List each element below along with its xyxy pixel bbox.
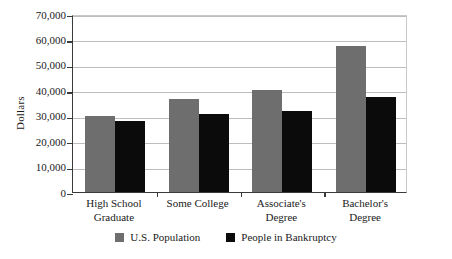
x-axis-label-line: Associate's <box>257 197 306 209</box>
y-axis-tick-label: 70,000 <box>36 10 66 21</box>
y-axis-tick-label: 10,000 <box>36 162 66 173</box>
legend-swatch-icon <box>226 233 235 242</box>
x-axis-category-label: Bachelor'sDegree <box>323 197 407 224</box>
bar <box>366 97 396 192</box>
x-axis-category-label: High SchoolGraduate <box>72 197 156 224</box>
bar <box>252 90 282 192</box>
x-axis-category-labels: High SchoolGraduateSome CollegeAssociate… <box>72 197 407 229</box>
legend-label: People in Bankruptcy <box>241 231 336 243</box>
bar-chart: Dollars 70,00060,00050,00040,00030,00020… <box>0 0 452 259</box>
bar <box>169 99 199 192</box>
legend-entry: People in Bankruptcy <box>226 231 336 243</box>
bar <box>85 116 115 192</box>
y-axis-tick-label: 50,000 <box>36 60 66 71</box>
x-axis-label-line: Bachelor's <box>342 197 388 209</box>
y-axis-tick-label: 60,000 <box>36 35 66 46</box>
bar-group <box>241 16 325 192</box>
bar-group <box>324 16 408 192</box>
y-axis-tick-mark <box>67 194 73 195</box>
y-axis-tick-label: 20,000 <box>36 137 66 148</box>
y-axis-tick-label: 0 <box>61 188 67 199</box>
legend-label: U.S. Population <box>130 231 200 243</box>
y-axis-tick-label: 40,000 <box>36 86 66 97</box>
x-axis-label-line: Degree <box>240 211 324 225</box>
bar-group <box>157 16 241 192</box>
x-axis-label-line: Graduate <box>72 211 156 225</box>
bar <box>199 114 229 192</box>
bar-group <box>73 16 157 192</box>
x-axis-label-line: High School <box>86 197 141 209</box>
legend-entry: U.S. Population <box>115 231 200 243</box>
y-axis-tick-label: 30,000 <box>36 111 66 122</box>
x-axis-label-line: Some College <box>167 197 229 209</box>
bar <box>336 46 366 192</box>
x-axis-label-line: Degree <box>323 211 407 225</box>
bar <box>282 111 312 192</box>
x-axis-category-label: Associate'sDegree <box>240 197 324 224</box>
plot-area <box>72 15 407 193</box>
chart-legend: U.S. PopulationPeople in Bankruptcy <box>0 231 452 243</box>
x-axis-category-label: Some College <box>156 197 240 211</box>
y-axis-tick-labels: 70,00060,00050,00040,00030,00020,00010,0… <box>14 15 66 193</box>
bar <box>115 121 145 192</box>
legend-swatch-icon <box>115 233 124 242</box>
